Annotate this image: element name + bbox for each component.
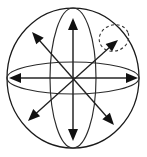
- arrow-head-west: [9, 73, 21, 83]
- sphere-diagram: [0, 0, 147, 157]
- arrow-head-east: [126, 73, 138, 83]
- vertical-axis-arrow: [68, 18, 78, 141]
- sphere-diagram-canvas: [0, 0, 147, 157]
- arrow-head-north: [68, 18, 78, 30]
- arrow-head-south: [68, 129, 78, 141]
